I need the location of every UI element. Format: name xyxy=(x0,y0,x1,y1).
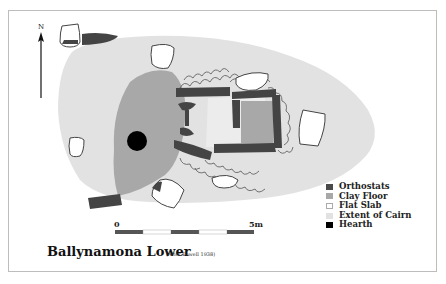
north-label: N xyxy=(38,23,44,31)
orthostats-swatch xyxy=(326,184,333,190)
hearth-swatch xyxy=(326,222,333,228)
scale-bar xyxy=(115,230,254,234)
scale-end-label: 5m xyxy=(249,219,263,229)
legend-item-hearth: Hearth xyxy=(326,220,411,230)
north-arrow xyxy=(38,32,44,98)
chamber-clay xyxy=(241,101,273,143)
figure-credit: (After Powell 1938) xyxy=(166,251,215,257)
legend: Orthostats Clay Floor Flat Slab Extent o… xyxy=(326,182,411,230)
legend-label: Hearth xyxy=(339,220,373,230)
flat-slab-swatch xyxy=(326,203,333,209)
site-plan xyxy=(0,0,446,284)
clay-floor-swatch xyxy=(326,193,333,199)
hearth xyxy=(127,131,147,151)
scale-start-label: 0 xyxy=(114,219,120,229)
cairn-swatch xyxy=(326,213,333,219)
